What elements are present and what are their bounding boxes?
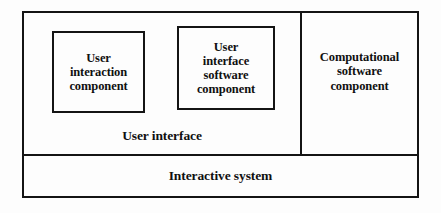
diagram-canvas: User interaction component User interfac… <box>0 0 441 213</box>
computational-software-component-label: Computational software component <box>302 50 417 93</box>
user-interface-software-component-box: User interface software component <box>177 26 275 110</box>
user-interface-label: User interface <box>24 128 300 143</box>
user-interface-software-component-label: User interface software component <box>197 40 255 96</box>
user-interaction-component-label: User interaction component <box>69 51 127 93</box>
user-interaction-component-box: User interaction component <box>52 31 145 113</box>
interactive-system-label: Interactive system <box>24 168 417 183</box>
